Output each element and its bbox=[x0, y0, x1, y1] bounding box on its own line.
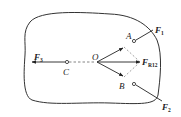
force-f1-line bbox=[136, 30, 153, 40]
label-a: A bbox=[125, 31, 132, 41]
label-b: B bbox=[119, 81, 125, 91]
force-f2-translated-arrow bbox=[97, 62, 123, 76]
force-f1-translated-arrow bbox=[97, 48, 123, 62]
parallelogram-dash-upper bbox=[124, 47, 139, 61]
label-o: O bbox=[92, 52, 99, 62]
parallelogram-dash-lower bbox=[124, 63, 139, 77]
label-f3: F3 bbox=[33, 52, 43, 63]
label-fr12: FR12 bbox=[141, 57, 158, 68]
label-f1: F1 bbox=[154, 25, 164, 36]
force-diagram: O C A B F3 F1 F2 FR12 bbox=[0, 0, 181, 117]
point-c bbox=[65, 60, 68, 63]
point-b bbox=[132, 82, 135, 85]
label-c: C bbox=[63, 67, 70, 77]
label-f2: F2 bbox=[161, 102, 171, 113]
point-a bbox=[132, 39, 135, 42]
